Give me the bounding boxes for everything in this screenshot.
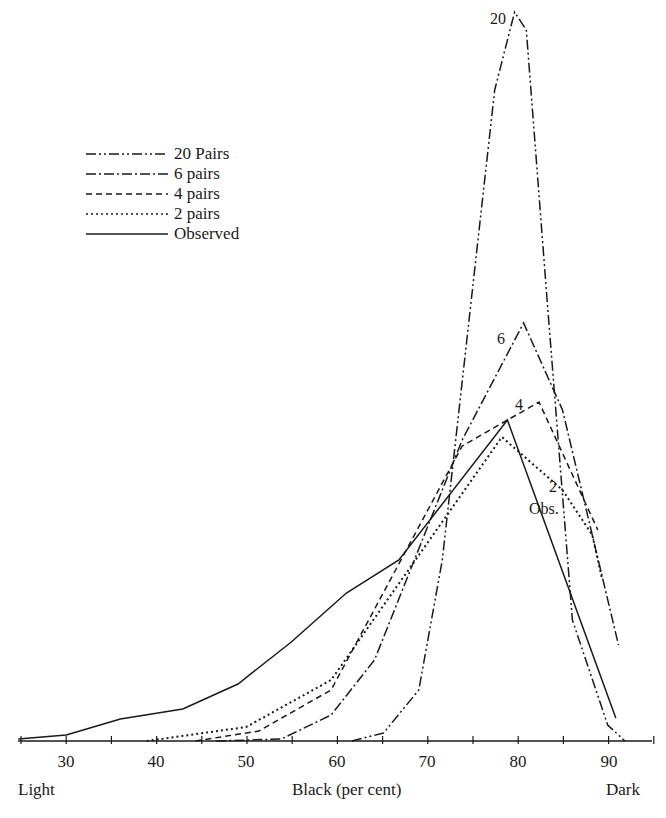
- legend-swatch-dash-dot-dot: [86, 149, 168, 159]
- curve-label-4: 4: [515, 396, 523, 414]
- series-line-observed: [18, 420, 616, 739]
- series-group: [18, 12, 625, 741]
- legend-swatch-dotted: [86, 209, 168, 219]
- legend-swatch-dash-dot: [86, 169, 168, 179]
- legend-label: 20 Pairs: [174, 144, 229, 164]
- legend-label: 2 pairs: [174, 204, 220, 224]
- legend-label: 6 pairs: [174, 164, 220, 184]
- x-tick-label-50: 50: [238, 752, 255, 772]
- x-tick-label-30: 30: [58, 752, 75, 772]
- x-tick-label-70: 70: [419, 752, 436, 772]
- x-tick-label-90: 90: [601, 752, 618, 772]
- curve-label-20: 20: [490, 10, 506, 28]
- legend: 20 Pairs 6 pairs 4 pairs 2 pairs Observe…: [86, 144, 239, 244]
- series-line-2-pairs: [147, 437, 603, 741]
- x-axis-left-label: Light: [18, 780, 55, 800]
- legend-item-4-pairs: 4 pairs: [86, 184, 239, 204]
- legend-label: Observed: [174, 224, 239, 244]
- x-axis-right-label: Dark: [606, 780, 640, 800]
- series-line-6-pairs: [216, 323, 618, 741]
- curve-label-6: 6: [497, 330, 505, 348]
- curve-label-2: 2: [549, 478, 557, 496]
- x-axis-ticks: [21, 736, 654, 744]
- x-tick-label-80: 80: [510, 752, 527, 772]
- x-axis-title: Black (per cent): [292, 780, 402, 800]
- series-line-4-pairs: [196, 402, 598, 741]
- legend-item-20-pairs: 20 Pairs: [86, 144, 239, 164]
- x-tick-label-40: 40: [148, 752, 165, 772]
- legend-swatch-solid: [86, 229, 168, 239]
- legend-item-observed: Observed: [86, 224, 239, 244]
- legend-label: 4 pairs: [174, 184, 220, 204]
- legend-item-6-pairs: 6 pairs: [86, 164, 239, 184]
- x-tick-label-60: 60: [329, 752, 346, 772]
- legend-swatch-dashed: [86, 189, 168, 199]
- curve-label-obs: Obs.: [529, 500, 559, 518]
- legend-item-2-pairs: 2 pairs: [86, 204, 239, 224]
- chart-canvas: [0, 0, 666, 818]
